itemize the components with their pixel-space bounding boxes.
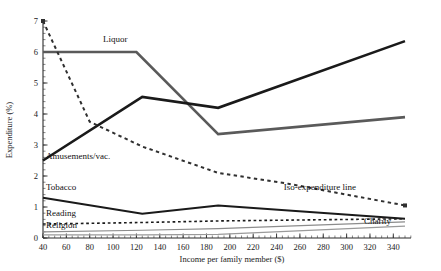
x-tick-label: 340 xyxy=(387,242,400,252)
series-label-amusements-vac: Amusements/vac. xyxy=(46,151,110,161)
x-tick-label: 300 xyxy=(340,242,353,252)
x-tick-label: 280 xyxy=(317,242,330,252)
series-line-liquor xyxy=(43,52,405,134)
data-marker xyxy=(403,203,407,207)
x-tick-label: 160 xyxy=(177,242,190,252)
series-label-religion: Religion xyxy=(46,220,77,230)
y-tick-label: 3 xyxy=(34,140,38,150)
series-line-reading xyxy=(43,219,405,224)
y-tick-label: 0 xyxy=(34,233,38,243)
y-tick-label: 2 xyxy=(34,171,38,181)
chart-series-group xyxy=(43,21,405,235)
series-line-iso-expenditure-line xyxy=(43,21,405,205)
chart-data-markers xyxy=(41,19,407,207)
series-line-amusements-vac xyxy=(43,41,405,160)
x-tick-label: 120 xyxy=(130,242,143,252)
y-axis-title: Expenditure (%) xyxy=(4,102,14,159)
y-tick-label: 1 xyxy=(34,202,38,212)
series-label-charity: Charity xyxy=(364,216,391,226)
x-tick-label: 100 xyxy=(107,242,120,252)
x-tick-label: 220 xyxy=(247,242,260,252)
y-tick-label: 4 xyxy=(34,109,39,119)
chart-container: 4060801001201401601802002202402602803003… xyxy=(0,0,441,271)
x-tick-label: 180 xyxy=(200,242,213,252)
x-axis-title: Income per family member ($) xyxy=(180,254,285,264)
series-line-tobacco xyxy=(43,198,405,219)
x-tick-label: 80 xyxy=(85,242,94,252)
x-tick-label: 320 xyxy=(364,242,377,252)
y-tick-label: 5 xyxy=(34,78,38,88)
expenditure-line-chart: 4060801001201401601802002202402602803003… xyxy=(0,0,441,271)
y-tick-label: 7 xyxy=(34,16,38,26)
x-tick-label: 200 xyxy=(223,242,236,252)
x-tick-label: 40 xyxy=(39,242,48,252)
x-tick-label: 260 xyxy=(294,242,307,252)
data-marker xyxy=(41,19,45,23)
x-tick-label: 140 xyxy=(153,242,166,252)
x-tick-label: 60 xyxy=(62,242,71,252)
y-tick-label: 6 xyxy=(34,47,38,57)
series-label-liquor: Liquor xyxy=(103,34,128,44)
series-label-iso-expenditure-line: Iso-expenditure line xyxy=(284,182,356,192)
series-label-tobacco: Tobacco xyxy=(46,182,77,192)
x-tick-label: 240 xyxy=(270,242,283,252)
series-label-reading: Reading xyxy=(46,208,76,218)
